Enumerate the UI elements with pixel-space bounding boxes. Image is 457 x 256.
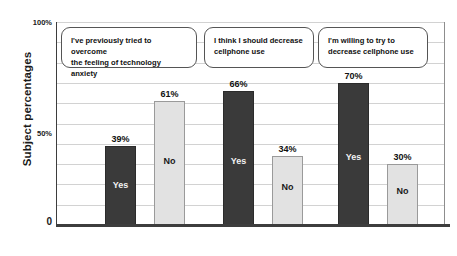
bar-value-label: 34% (278, 144, 296, 154)
callout-line-1: I'm willing to try to (328, 35, 419, 46)
bar-chart: Subject percentages 100% 50% 0 39% Yes 6… (0, 0, 457, 256)
bar-value-label: 39% (111, 134, 129, 144)
bar-answer-label: Yes (346, 152, 362, 162)
callout-line-1: I've previously tried to overcome (71, 35, 188, 57)
bar-group3-no[interactable]: 30% No (387, 164, 418, 225)
callout-line-1: I think I should decrease (214, 35, 305, 46)
gridline (57, 22, 444, 23)
bar-answer-label: Yes (113, 180, 129, 190)
bar-answer-label: No (282, 182, 294, 192)
y-tick-label-0: 0 (14, 216, 52, 227)
callout-line-2: cellphone use (214, 46, 305, 57)
callout-question-2: I think I should decrease cellphone use (204, 27, 314, 68)
bar-answer-label: Yes (231, 156, 247, 166)
bar-group3-yes[interactable]: 70% Yes (338, 83, 369, 225)
bar-group2-yes[interactable]: 66% Yes (223, 91, 254, 225)
callout-question-1: I've previously tried to overcome the fe… (61, 27, 197, 68)
bar-value-label: 70% (344, 71, 362, 81)
bar-value-label: 30% (393, 152, 411, 162)
bar-group1-yes[interactable]: 39% Yes (105, 146, 136, 225)
callout-question-3: I'm willing to try to decrease cellphone… (318, 27, 428, 68)
y-axis-title: Subject percentages (21, 24, 33, 194)
callout-line-2: the feeling of technology anxiety (71, 57, 188, 79)
callout-line-2: decrease cellphone use (328, 46, 419, 57)
bar-group2-no[interactable]: 34% No (272, 156, 303, 225)
bar-group1-no[interactable]: 61% No (154, 101, 185, 225)
y-tick-label-50: 50% (14, 129, 52, 138)
x-axis-line (56, 224, 450, 227)
bar-answer-label: No (397, 186, 409, 196)
bar-value-label: 61% (160, 89, 178, 99)
bar-value-label: 66% (229, 79, 247, 89)
bar-answer-label: No (164, 156, 176, 166)
y-tick-label-100: 100% (14, 18, 52, 27)
gridline (57, 83, 444, 84)
